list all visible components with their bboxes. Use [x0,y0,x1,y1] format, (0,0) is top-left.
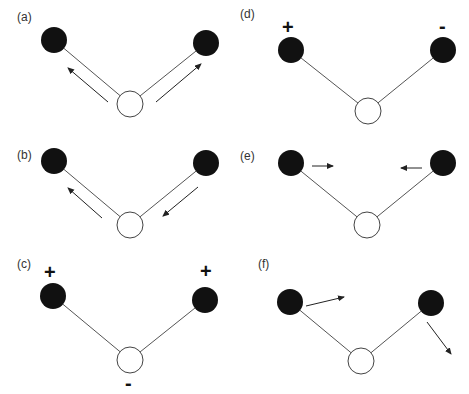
panel-label-a: (a) [17,10,32,24]
outer-atom-left [277,289,303,315]
arrow-icon [68,188,102,218]
panel-label-f: (f) [258,257,269,271]
panel-d: (d) + - [240,7,456,124]
outer-atom-left [41,27,67,53]
outer-atom-right [193,150,219,176]
center-atom [355,98,381,124]
vibrational-modes-diagram: (a) (b) (c) + + - (d) [0,0,469,394]
outer-atom-right [192,287,218,313]
panel-c: (c) + + - [17,257,218,394]
center-atom [348,348,374,374]
panel-label-d: (d) [240,7,255,21]
panel-b: (b) [17,148,219,238]
arrow-icon [68,68,108,102]
center-atom [117,347,143,373]
arrow-icon [306,297,344,306]
outer-atom-left [278,150,304,176]
panel-e: (e) [240,149,456,238]
outer-atom-left [41,148,67,174]
minus-sign-icon: - [439,15,446,37]
outer-atom-right [418,290,444,316]
panel-f: (f) [258,257,451,374]
center-atom [117,91,143,117]
panel-label-c: (c) [17,257,31,271]
plus-sign-icon: + [200,260,212,282]
center-atom [117,212,143,238]
arrow-icon [427,322,451,354]
center-atom [354,212,380,238]
panel-label-b: (b) [17,148,32,162]
outer-atom-right [430,37,456,63]
outer-atom-left [278,37,304,63]
arrow-icon [156,64,201,102]
panel-a: (a) [17,10,219,117]
outer-atom-right [193,30,219,56]
arrow-icon [163,187,198,216]
plus-sign-icon: + [44,261,56,283]
outer-atom-right [430,150,456,176]
outer-atom-left [40,283,66,309]
plus-sign-icon: + [282,16,294,38]
minus-sign-icon: - [125,372,132,394]
panel-label-e: (e) [240,149,255,163]
